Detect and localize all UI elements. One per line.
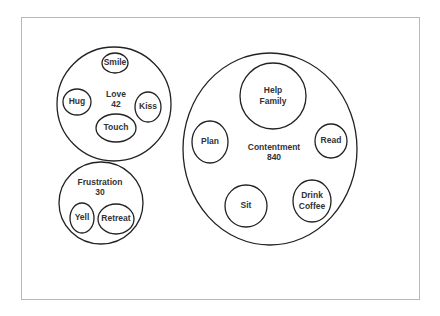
touch-label: Touch <box>104 122 129 132</box>
item-read: Read <box>315 124 347 158</box>
plan-label: Plan <box>201 136 219 146</box>
contentment-label: Contentment <box>248 142 301 152</box>
help-family-label: Family <box>260 96 287 106</box>
item-kiss: Kiss <box>135 92 161 122</box>
frustration-circle <box>59 162 143 244</box>
item-sit: Sit <box>225 185 267 227</box>
contentment-value: 840 <box>267 152 281 162</box>
drink-coffee-label: Drink <box>301 190 323 200</box>
item-smile: Smile <box>102 53 128 73</box>
read-label: Read <box>321 135 342 145</box>
bubble-diagram: Love42SmileHugKissTouchFrustration30Yell… <box>0 0 440 316</box>
yell-label: Yell <box>75 212 90 222</box>
group-frustration: Frustration30YellRetreat <box>59 162 143 244</box>
smile-label: Smile <box>104 57 127 67</box>
frustration-label: Frustration <box>78 177 123 187</box>
item-help-family: HelpFamily <box>240 63 306 129</box>
item-plan: Plan <box>192 121 228 163</box>
kiss-label: Kiss <box>139 101 157 111</box>
love-value: 42 <box>111 99 121 109</box>
sit-label: Sit <box>241 200 252 210</box>
item-touch: Touch <box>96 114 136 142</box>
frustration-value: 30 <box>95 187 105 197</box>
item-retreat: Retreat <box>98 204 134 234</box>
group-love: Love42SmileHugKissTouch <box>57 47 171 161</box>
item-yell: Yell <box>70 203 94 233</box>
group-contentment: Contentment840HelpFamilyPlanReadSitDrink… <box>183 53 357 245</box>
help-family-label: Help <box>264 85 282 95</box>
retreat-label: Retreat <box>101 213 130 223</box>
drink-coffee-label: Coffee <box>299 201 326 211</box>
item-drink-coffee: DrinkCoffee <box>293 180 331 222</box>
love-label: Love <box>106 89 126 99</box>
item-hug: Hug <box>63 89 91 115</box>
hug-label: Hug <box>69 96 86 106</box>
